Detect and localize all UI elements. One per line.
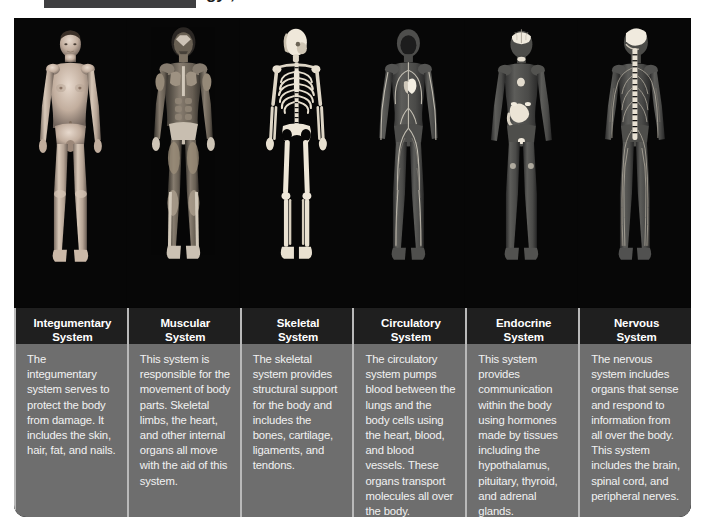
body-images-row (14, 18, 691, 308)
skeletal-system-body-figure (240, 18, 353, 308)
caption-cell-nervous: Nervous System The nervous system includ… (578, 308, 691, 517)
caption-body-integumentary: The integumentary system serves to prote… (27, 352, 118, 458)
caption-body-circulatory: The circulatory system pumps blood betwe… (365, 352, 456, 517)
caption-title-endocrine: Endocrine System (478, 317, 569, 344)
caption-cell-muscular: Muscular System This system is responsib… (127, 308, 240, 517)
figure-cell-muscular (127, 18, 240, 308)
figure-cell-integumentary (14, 18, 127, 308)
captions-row: Integumentary System The integumentary s… (14, 308, 691, 517)
header-tag-block (44, 0, 196, 8)
caption-title-skeletal: Skeletal System (253, 317, 344, 344)
figure-cell-skeletal (240, 18, 353, 308)
integumentary-system-body-figure (14, 18, 127, 308)
caption-cell-skeletal: Skeletal System The skeletal system prov… (240, 308, 353, 517)
page-root: gy , (0, 0, 705, 526)
page-header-strip: gy , (0, 0, 705, 14)
caption-body-nervous: The nervous system includes organs that … (591, 352, 682, 504)
caption-title-circulatory: Circulatory System (365, 317, 456, 344)
figure-cell-endocrine (465, 18, 578, 308)
figure-cell-nervous (578, 18, 691, 308)
caption-cell-endocrine: Endocrine System This system provides co… (465, 308, 578, 517)
caption-title-muscular: Muscular System (140, 317, 231, 344)
caption-body-skeletal: The skeletal system provides structural … (253, 352, 344, 474)
caption-title-nervous: Nervous System (591, 317, 682, 344)
caption-cell-circulatory: Circulatory System The circulatory syste… (352, 308, 465, 517)
muscular-system-body-figure (127, 18, 240, 308)
nervous-system-body-figure (578, 18, 691, 308)
caption-title-integumentary: Integumentary System (27, 317, 118, 344)
caption-body-muscular: This system is responsible for the movem… (140, 352, 231, 489)
circulatory-system-body-figure (352, 18, 465, 308)
figure-cell-circulatory (352, 18, 465, 308)
human-body-systems-figure: Integumentary System The integumentary s… (14, 18, 691, 517)
page-title: gy , (206, 0, 235, 4)
endocrine-system-body-figure (465, 18, 578, 308)
caption-body-endocrine: This system provides communication withi… (478, 352, 569, 517)
caption-cell-integumentary: Integumentary System The integumentary s… (14, 308, 127, 517)
